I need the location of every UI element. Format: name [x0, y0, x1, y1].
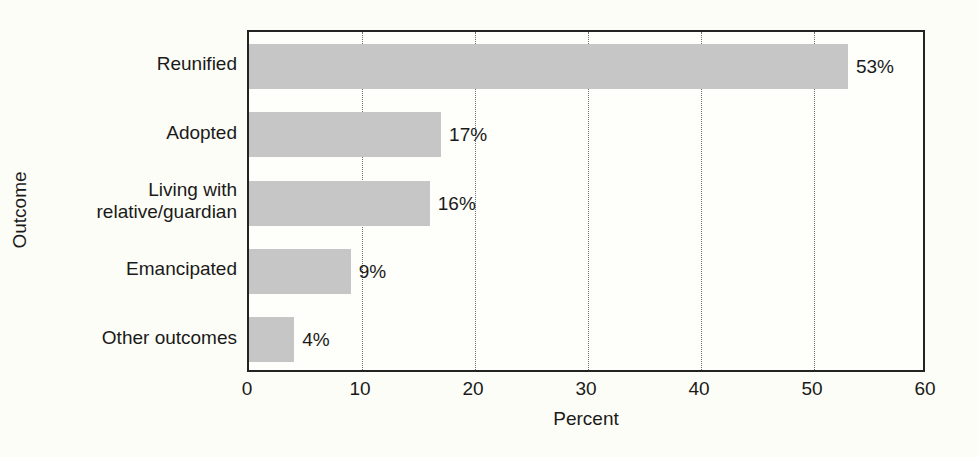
category-label-line: Emancipated: [40, 258, 237, 280]
bar-value-label: 16%: [430, 181, 476, 226]
category-label: Living withrelative/guardian: [40, 179, 237, 223]
x-axis-title: Percent: [247, 408, 925, 430]
bar: [249, 317, 294, 362]
category-label-line: Other outcomes: [40, 327, 237, 349]
bar: [249, 181, 430, 226]
category-label-line: Adopted: [40, 122, 237, 144]
bar-value-label: 53%: [848, 44, 894, 89]
bar: [249, 249, 351, 294]
plot-area: 53%17%16%9%4%: [247, 30, 925, 372]
x-tick-label: 0: [242, 378, 253, 400]
y-axis-title: Outcome: [0, 130, 40, 290]
bar-chart-figure: Outcome ReunifiedAdoptedLiving withrelat…: [0, 0, 978, 457]
category-label-line: Living with: [40, 179, 237, 201]
x-tick-label: 50: [801, 378, 822, 400]
x-tick-label: 30: [575, 378, 596, 400]
bar-value-label: 9%: [351, 249, 386, 294]
x-tick-label: 60: [914, 378, 935, 400]
x-tick-label: 10: [349, 378, 370, 400]
bar: [249, 44, 848, 89]
category-label: Other outcomes: [40, 327, 237, 349]
category-label: Adopted: [40, 122, 237, 144]
bar-value-label: 17%: [441, 112, 487, 157]
category-label-line: Reunified: [40, 53, 237, 75]
plot-inner: 53%17%16%9%4%: [249, 32, 923, 370]
category-label: Reunified: [40, 53, 237, 75]
bar-value-label: 4%: [294, 317, 329, 362]
category-label-line: relative/guardian: [40, 201, 237, 223]
x-tick-label: 40: [688, 378, 709, 400]
category-label: Emancipated: [40, 258, 237, 280]
bar: [249, 112, 441, 157]
x-axis-tick-labels: 0102030405060: [247, 378, 925, 406]
category-label-column: ReunifiedAdoptedLiving withrelative/guar…: [40, 30, 237, 372]
x-tick-label: 20: [462, 378, 483, 400]
